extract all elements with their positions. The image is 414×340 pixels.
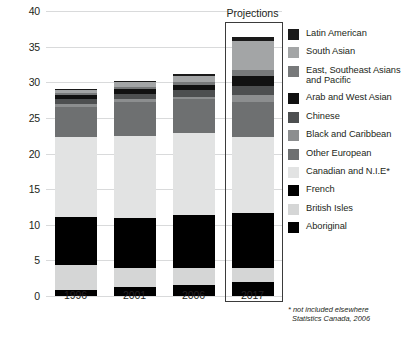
legend-item[interactable]: British Isles (288, 203, 412, 215)
bar-segment (173, 215, 215, 268)
y-tick-label-25: 25 (29, 112, 40, 124)
legend-item[interactable]: Chinese (288, 111, 412, 123)
bar-2006[interactable] (173, 74, 215, 296)
bar-segment (55, 217, 97, 265)
legend-label: Aboriginal (306, 221, 347, 232)
legend-label: Other European (306, 148, 371, 159)
x-axis-label-1996: 1996 (45, 289, 107, 301)
y-tick-label-40: 40 (29, 5, 40, 17)
legend-swatch-icon (288, 29, 299, 40)
legend-swatch-icon (288, 185, 299, 196)
footnote: * not included elsewhere Statistics Cana… (288, 305, 412, 324)
bar-segment (55, 137, 97, 217)
bar-segment (232, 102, 274, 138)
y-tick-label-10: 10 (29, 219, 40, 231)
legend-item[interactable]: East, Southeast Asians and Pacific (288, 65, 412, 86)
bar-segment (232, 86, 274, 95)
legend-label: South Asian (306, 46, 355, 57)
footnote-line-1: * not included elsewhere (288, 305, 369, 314)
y-tick-label-15: 15 (29, 183, 40, 195)
x-axis-label-2006: 2006 (163, 289, 225, 301)
plot-area (46, 11, 282, 296)
legend-label: Latin American (306, 28, 367, 39)
y-tick-label-30: 30 (29, 76, 40, 88)
legend-label: British Isles (306, 203, 353, 214)
legend-swatch-icon (288, 130, 299, 141)
legend-swatch-icon (288, 112, 299, 123)
legend-swatch-icon (288, 93, 299, 104)
bar-segment (232, 213, 274, 267)
bar-segment (173, 133, 215, 215)
legend-label: Canadian and N.I.E* (306, 166, 390, 177)
bar-1996[interactable] (55, 89, 97, 296)
y-tick-label-20: 20 (29, 148, 40, 160)
bar-2017[interactable] (232, 37, 274, 296)
footnote-line-2: Statistics Canada, 2006 (288, 314, 412, 323)
bar-segment (232, 76, 274, 86)
legend-swatch-icon (288, 167, 299, 178)
chart-page: 0510152025303540 Projections Latin Ameri… (0, 0, 414, 340)
bar-group (46, 11, 282, 296)
y-tick-label-0: 0 (34, 290, 40, 302)
bar-segment (114, 268, 156, 288)
x-axis-label-2001: 2001 (104, 289, 166, 301)
legend-swatch-icon (288, 222, 299, 233)
bar-segment (173, 268, 215, 285)
legend-item[interactable]: French (288, 184, 412, 196)
bar-segment (232, 137, 274, 213)
legend-item[interactable]: Canadian and N.I.E* (288, 166, 412, 178)
bar-segment (55, 107, 97, 138)
y-tick-label-35: 35 (29, 41, 40, 53)
legend-label: Black and Caribbean (306, 129, 391, 140)
bar-segment (114, 102, 156, 135)
legend-item[interactable]: South Asian (288, 46, 412, 58)
legend-swatch-icon (288, 66, 299, 77)
y-tick-label-5: 5 (34, 254, 40, 266)
bar-2001[interactable] (114, 81, 156, 296)
bar-segment (114, 218, 156, 267)
legend-label: Chinese (306, 111, 340, 122)
legend-swatch-icon (288, 149, 299, 160)
legend-label: French (306, 184, 335, 195)
legend-label: Arab and West Asian (306, 92, 392, 103)
legend-item[interactable]: Latin American (288, 28, 412, 40)
legend-item[interactable]: Arab and West Asian (288, 92, 412, 104)
legend-label: East, Southeast Asians and Pacific (306, 65, 412, 86)
bar-segment (232, 268, 274, 283)
chart-legend: Latin AmericanSouth AsianEast, Southeast… (288, 28, 412, 239)
legend-item[interactable]: Aboriginal (288, 221, 412, 233)
legend-swatch-icon (288, 47, 299, 58)
bar-segment (173, 99, 215, 132)
bar-segment (232, 41, 274, 70)
bar-segment (114, 136, 156, 219)
x-axis-label-2017: 2017 (222, 289, 284, 301)
legend-swatch-icon (288, 204, 299, 215)
projections-label: Projections (227, 7, 279, 19)
legend-item[interactable]: Black and Caribbean (288, 129, 412, 141)
bar-segment (55, 265, 97, 290)
legend-item[interactable]: Other European (288, 148, 412, 160)
